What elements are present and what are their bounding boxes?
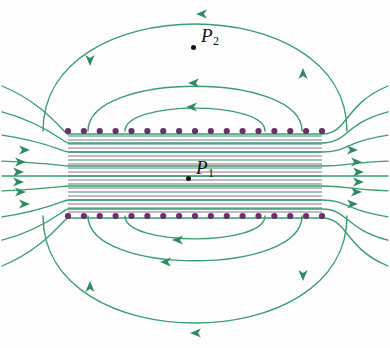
field-direction-arrow xyxy=(19,145,30,154)
bottom-plate-charge-dot xyxy=(65,213,71,219)
field-direction-arrow xyxy=(13,167,24,176)
field-direction-arrow xyxy=(353,167,364,176)
top-outer-loop-line xyxy=(125,108,265,131)
bottom-plate-charge-dot xyxy=(208,213,214,219)
electric-field-diagram xyxy=(0,0,390,348)
top-plate-charge-dot xyxy=(208,128,214,134)
top-plate-charge-dot xyxy=(81,128,87,134)
top-plate-charge-dot xyxy=(192,128,198,134)
top-plate-charge-dot xyxy=(113,128,119,134)
fringe-field-line xyxy=(2,218,388,266)
field-direction-arrow xyxy=(172,235,183,244)
bottom-plate-charge-dot xyxy=(303,213,309,219)
bottom-plate-charge-dot xyxy=(192,213,198,219)
top-plate-charge-dot xyxy=(65,128,71,134)
bottom-plate-charge-dot xyxy=(97,213,103,219)
outer-loop-field-lines-group xyxy=(43,24,347,323)
top-plate-charge-dot xyxy=(271,128,277,134)
top-plate-charge-dot xyxy=(160,128,166,134)
top-plate-charge-dot xyxy=(287,128,293,134)
top-outer-loop-line xyxy=(43,24,347,131)
bottom-plate-charge-dot xyxy=(128,213,134,219)
point-p2-label: P2 xyxy=(201,26,219,47)
top-plate-charge-dot xyxy=(255,128,261,134)
top-plate-charge-dot xyxy=(224,128,230,134)
field-direction-arrow xyxy=(85,281,94,292)
field-direction-arrow xyxy=(13,177,24,186)
field-direction-arrow xyxy=(353,177,364,186)
bottom-outer-loop-line xyxy=(43,216,347,323)
top-plate-charge-dot xyxy=(240,128,246,134)
field-direction-arrow xyxy=(190,328,201,337)
field-direction-arrow xyxy=(347,145,358,154)
bottom-plate-charge-dot xyxy=(271,213,277,219)
field-direction-arrow xyxy=(186,102,197,111)
top-plate-charges-group xyxy=(65,128,325,134)
top-plate-charge-dot xyxy=(303,128,309,134)
bottom-outer-loop-line xyxy=(125,216,265,239)
bottom-plate-charge-dot xyxy=(240,213,246,219)
bottom-plate-charge-dot xyxy=(255,213,261,219)
point-p1-label-text: P xyxy=(196,157,208,178)
bottom-plate-charge-dot xyxy=(224,213,230,219)
top-plate-charge-dot xyxy=(97,128,103,134)
point-p1-marker xyxy=(186,176,191,181)
top-plate-charge-dot xyxy=(128,128,134,134)
field-direction-arrow xyxy=(85,55,94,66)
bottom-plate-charge-dot xyxy=(160,213,166,219)
top-plate-charge-dot xyxy=(144,128,150,134)
bottom-plate-charge-dot xyxy=(176,213,182,219)
figure-canvas: P1 P2 xyxy=(0,0,390,348)
bottom-plate-charge-dot xyxy=(81,213,87,219)
point-p2-label-subscript: 2 xyxy=(213,34,220,48)
bottom-plate-charge-dot xyxy=(319,213,325,219)
field-direction-arrow xyxy=(298,270,307,281)
field-direction-arrow xyxy=(351,157,362,166)
bottom-plate-charge-dot xyxy=(287,213,293,219)
field-direction-arrow xyxy=(196,9,207,18)
point-p1-label: P1 xyxy=(196,158,214,179)
field-direction-arrow xyxy=(19,199,30,208)
field-direction-arrow xyxy=(298,68,307,79)
top-plate-charge-dot xyxy=(176,128,182,134)
bottom-plate-charge-dot xyxy=(113,213,119,219)
point-p2-marker xyxy=(191,45,196,50)
point-p2-label-text: P xyxy=(201,25,213,46)
point-p1-label-subscript: 1 xyxy=(208,166,215,180)
top-plate-charge-dot xyxy=(319,128,325,134)
bottom-plate-charge-dot xyxy=(144,213,150,219)
field-direction-arrow xyxy=(15,187,26,196)
